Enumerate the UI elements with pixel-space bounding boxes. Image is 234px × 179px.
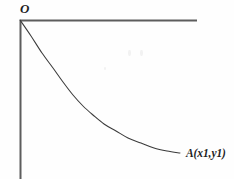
origin-label: O [20, 2, 30, 15]
decaying-curve-path [20, 20, 180, 153]
scan-speck [128, 50, 131, 56]
axes-group [20, 20, 197, 179]
figure-canvas: O A(x1,y1) [0, 0, 234, 179]
scan-speck [104, 67, 106, 70]
curve-group [20, 20, 180, 153]
point-a-label: A(x1,y1) [186, 148, 226, 160]
scan-speck [140, 50, 143, 56]
